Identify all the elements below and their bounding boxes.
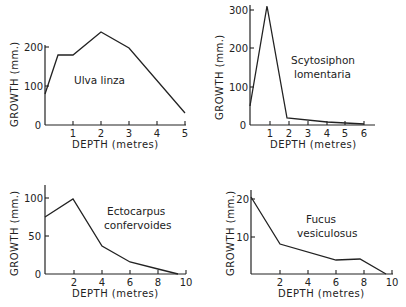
svg-text:200: 200	[229, 43, 248, 54]
species-label: Scytosiphon	[291, 54, 355, 66]
svg-text:10: 10	[236, 232, 249, 243]
svg-text:2: 2	[98, 128, 104, 139]
svg-text:10: 10	[180, 277, 193, 288]
series-line	[45, 32, 185, 113]
svg-text:5: 5	[182, 128, 188, 139]
y-tick: 100	[24, 81, 43, 92]
svg-text:100: 100	[24, 193, 43, 204]
species-label: Ectocarpus	[107, 205, 165, 217]
svg-text:4: 4	[324, 128, 330, 139]
svg-text:4: 4	[154, 128, 160, 139]
y-tick: 200	[24, 42, 43, 53]
svg-text:0: 0	[240, 120, 246, 131]
chart-scytosiphon-lomentaria: 0 100 200 300 1 2 3 4 5 6 DEPTH (metres)…	[214, 5, 375, 150]
chart-fucus-vesiculosus: 20 10 2 4 6 8 10 DEPTH (metres) GROWTH (…	[225, 190, 398, 299]
species-label: vesiculosus	[297, 227, 357, 239]
svg-text:4: 4	[99, 277, 105, 288]
x-axis-label: DEPTH (metres)	[72, 288, 159, 299]
svg-text:5: 5	[342, 128, 348, 139]
x-axis-label: DEPTH (metres)	[270, 139, 357, 150]
svg-text:2: 2	[286, 128, 292, 139]
chart-ectocarpus-confervoides: 0 50 100 2 4 6 8 10 DEPTH (metres) GROWT…	[9, 185, 192, 299]
y-axis-label: GROWTH (mm.)	[214, 34, 225, 120]
svg-text:50: 50	[28, 231, 41, 242]
svg-text:1: 1	[70, 128, 76, 139]
svg-text:0: 0	[35, 269, 41, 280]
svg-text:20: 20	[236, 194, 249, 205]
svg-text:6: 6	[361, 128, 367, 139]
species-label: confervoides	[104, 219, 171, 231]
svg-text:8: 8	[361, 277, 367, 288]
svg-text:1: 1	[267, 128, 273, 139]
svg-text:300: 300	[229, 5, 248, 16]
svg-text:8: 8	[155, 277, 161, 288]
species-label: Ulva linza	[74, 74, 125, 86]
svg-text:6: 6	[333, 277, 339, 288]
x-axis-label: DEPTH (metres)	[72, 139, 159, 150]
species-label: lomentaria	[294, 68, 351, 80]
y-tick: 0	[35, 120, 41, 131]
figure-canvas: 0 100 200 1 2 3 4 5 DEPTH (metres) GROWT…	[0, 0, 406, 307]
svg-text:3: 3	[305, 128, 311, 139]
y-axis-label: GROWTH (mm.)	[9, 190, 20, 276]
svg-text:6: 6	[127, 277, 133, 288]
svg-text:2: 2	[277, 277, 283, 288]
svg-text:2: 2	[71, 277, 77, 288]
y-axis-label: GROWTH (mm.)	[9, 41, 20, 127]
svg-text:3: 3	[126, 128, 132, 139]
species-label: Fucus	[306, 213, 336, 225]
svg-text:100: 100	[229, 82, 248, 93]
y-axis-label: GROWTH (mm.)	[225, 190, 236, 276]
svg-text:4: 4	[305, 277, 311, 288]
chart-ulva-linza: 0 100 200 1 2 3 4 5 DEPTH (metres) GROWT…	[9, 32, 188, 150]
svg-text:10: 10	[386, 277, 399, 288]
x-axis-label: DEPTH (metres)	[278, 288, 365, 299]
